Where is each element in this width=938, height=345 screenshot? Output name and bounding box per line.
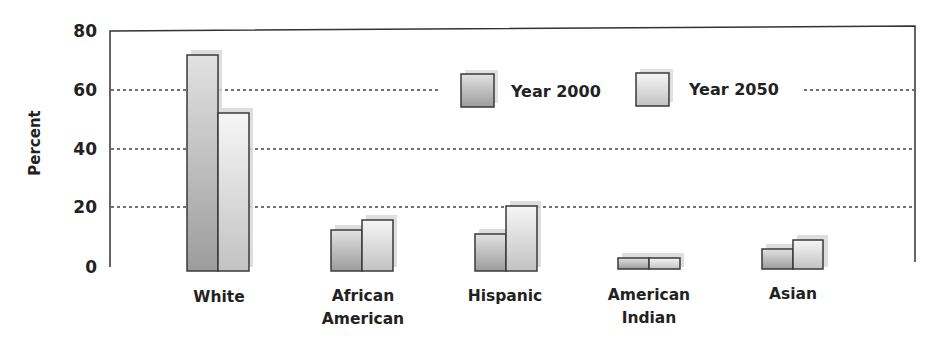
y-tick-40: 40	[73, 139, 97, 159]
x-axis-categories: White African American Hispanic American…	[193, 285, 817, 328]
bar-asian-2050	[793, 240, 823, 269]
bar-african-american-2050	[362, 220, 393, 271]
bar-american-indian-2050	[649, 258, 680, 269]
y-tick-0: 0	[85, 257, 97, 277]
y-axis-ticks: 80 60 40 20 0	[73, 21, 97, 277]
bar-american-indian-2000	[618, 258, 649, 269]
bar-hispanic-2000	[475, 234, 506, 271]
bar-hispanic-2050	[506, 206, 537, 271]
population-bar-chart: Percent 80 60 40 20 0	[0, 0, 938, 345]
category-label-african-american-line2: American	[322, 310, 404, 328]
category-label-asian: Asian	[769, 285, 817, 303]
legend-label-2000: Year 2000	[510, 82, 601, 101]
y-tick-80: 80	[73, 21, 97, 41]
category-label-american-indian-line1: American	[608, 286, 690, 304]
y-axis-label: Percent	[26, 110, 44, 175]
category-label-american-indian-line2: Indian	[622, 309, 677, 327]
category-label-white: White	[193, 288, 244, 306]
legend-swatch-2000	[461, 74, 494, 107]
bar-white-2050	[218, 113, 249, 271]
legend-label-2050: Year 2050	[688, 80, 779, 99]
bar-asian-2000	[762, 249, 793, 269]
y-tick-20: 20	[73, 197, 97, 217]
bar-white-2000	[187, 55, 218, 271]
bar-african-american-2000	[331, 230, 362, 271]
legend-swatch-2050	[636, 73, 669, 106]
legend: Year 2000 Year 2050	[461, 69, 779, 107]
category-label-african-american-line1: African	[332, 287, 394, 305]
y-tick-60: 60	[73, 80, 97, 100]
category-label-hispanic: Hispanic	[468, 287, 543, 305]
